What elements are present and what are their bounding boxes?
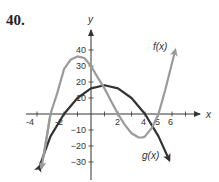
g-label: g(x)	[142, 150, 159, 161]
x-tick-label: -4	[26, 117, 34, 127]
y-axis-label: y	[87, 14, 94, 25]
x-tick-label: 6	[168, 117, 173, 127]
x-axis-label: x	[205, 109, 212, 120]
y-tick-label: −20	[71, 141, 86, 151]
f-label: f(x)	[153, 41, 167, 52]
x-tick-label: 4	[141, 117, 146, 127]
y-tick-label: −30	[71, 157, 86, 167]
y-tick-label: −10	[71, 125, 86, 135]
function-graph: -4 -2 2 4 5 6 40 30 20 10 −10 −20 −30 x …	[0, 0, 219, 182]
x-tick-label: 2	[115, 117, 120, 127]
y-tick-label: 20	[76, 77, 86, 87]
y-tick-label: 40	[76, 45, 86, 55]
f-curve	[44, 50, 176, 155]
y-tick-label: 30	[76, 61, 86, 71]
